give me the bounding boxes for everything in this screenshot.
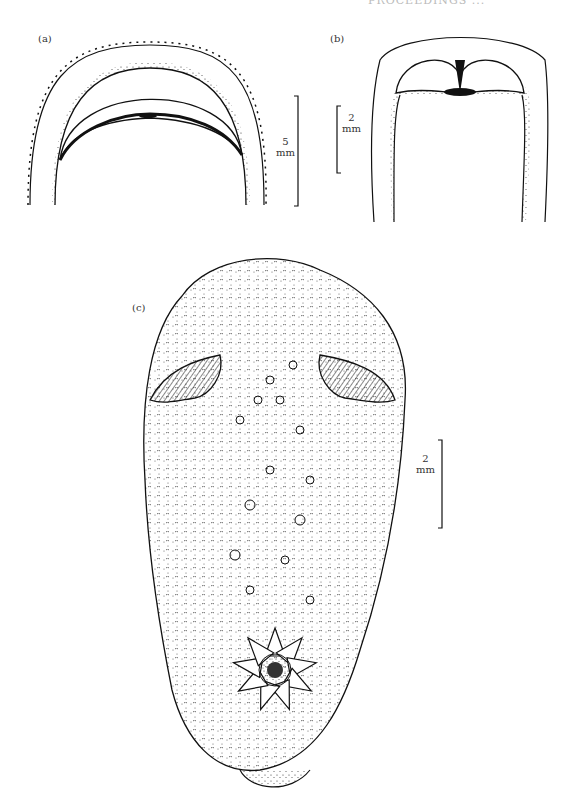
scale-value-a: 5: [276, 136, 295, 147]
panel-b-drawing: [372, 38, 549, 223]
scale-unit-a: mm: [276, 147, 295, 158]
scale-bar-b: [337, 106, 341, 173]
scale-label-c: 2 mm: [416, 453, 435, 475]
panel-a-drawing: [28, 42, 266, 205]
scale-label-a: 5 mm: [276, 136, 295, 158]
scale-bar-c: [438, 440, 442, 528]
scale-value-c: 2: [416, 453, 435, 464]
scale-unit-b: mm: [342, 123, 361, 134]
scale-label-b: 2 mm: [342, 112, 361, 134]
panel-a-label: (a): [38, 33, 52, 44]
panel-b-label: (b): [330, 33, 344, 44]
panel-c-label: (c): [132, 302, 145, 313]
figure-drawing: [0, 0, 567, 805]
scale-unit-c: mm: [416, 464, 435, 475]
panel-c-drawing: [144, 259, 406, 787]
scale-value-b: 2: [342, 112, 361, 123]
